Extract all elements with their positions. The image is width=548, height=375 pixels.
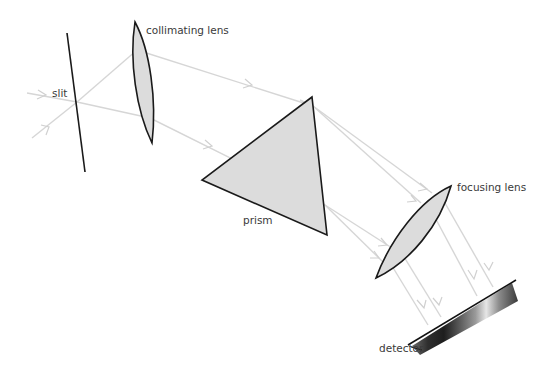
slit-label: slit — [52, 88, 67, 99]
detector-label: detector — [379, 343, 423, 354]
prism-label: prism — [243, 215, 273, 226]
focusing-lens-label: focusing lens — [457, 182, 526, 193]
collimating-lens — [133, 22, 154, 143]
collimating-lens-label: collimating lens — [146, 25, 229, 36]
spectrometer-diagram: slit collimating lens prism focusing len… — [0, 0, 548, 375]
focusing-lens — [376, 186, 451, 278]
